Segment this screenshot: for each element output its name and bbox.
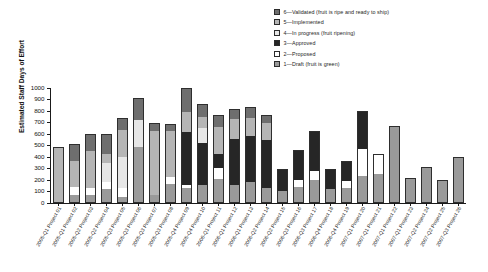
bar-segment-proposed xyxy=(102,182,111,189)
y-axis-tick-label: 900 xyxy=(34,96,44,102)
bar-segment-draft xyxy=(406,179,415,202)
bar-segment-approved xyxy=(230,139,239,185)
bar-slot xyxy=(434,88,450,203)
bar-stack[interactable] xyxy=(373,154,384,203)
bar-segment-approved xyxy=(294,151,303,180)
bar-stack[interactable] xyxy=(165,124,176,203)
legend-item[interactable]: 1—Draft (fruit is green) xyxy=(274,60,389,69)
bar-slot xyxy=(162,88,178,203)
legend-item[interactable]: 5—Implemented xyxy=(274,18,389,27)
bar-segment-implemented xyxy=(118,130,127,158)
bar-segment-implemented xyxy=(86,151,95,188)
bar-segment-draft xyxy=(358,176,367,202)
bar-segment-validated xyxy=(70,145,79,161)
bar-stack[interactable] xyxy=(85,134,96,203)
bar-stack[interactable] xyxy=(277,169,288,203)
stacked-bar-chart: 6—Validated (fruit is ripe and ready to … xyxy=(0,0,488,272)
legend-item-label: 4—In progress (fruit ripening) xyxy=(284,30,356,36)
bar-segment-validated xyxy=(118,119,127,129)
bar-stack[interactable] xyxy=(421,167,432,204)
bar-stack[interactable] xyxy=(437,180,448,203)
legend-item[interactable]: 4—In progress (fruit ripening) xyxy=(274,28,389,37)
bar-segment-approved xyxy=(358,112,367,149)
bar-segment-draft xyxy=(230,185,239,202)
bar-segment-proposed xyxy=(310,171,319,180)
bar-segment-draft xyxy=(438,181,447,202)
y-axis-tick-label: 200 xyxy=(34,177,44,183)
legend-item[interactable]: 6—Validated (fruit is ripe and ready to … xyxy=(274,7,389,16)
bar-segment-validated xyxy=(134,99,143,121)
bar-segment-proposed xyxy=(166,177,175,184)
bar-segment-approved xyxy=(310,132,319,171)
bar-segment-proposed xyxy=(342,181,351,188)
bar-slot xyxy=(82,88,98,203)
bar-segment-in_progress xyxy=(134,120,143,146)
bar-stack[interactable] xyxy=(101,134,112,203)
bar-stack[interactable] xyxy=(261,115,272,203)
legend-swatch-icon xyxy=(274,51,280,57)
bar-stack[interactable] xyxy=(69,144,80,203)
y-axis-tick-label: 100 xyxy=(34,188,44,194)
bar-segment-draft xyxy=(198,185,207,202)
bar-slot xyxy=(242,88,258,203)
bar-slot xyxy=(354,88,370,203)
bar-stack[interactable] xyxy=(357,111,368,203)
bar-slot xyxy=(338,88,354,203)
bar-segment-draft xyxy=(86,195,95,202)
bar-segment-approved xyxy=(326,170,335,190)
bar-stack[interactable] xyxy=(245,107,256,203)
legend-swatch-icon xyxy=(274,30,280,36)
bar-segment-draft xyxy=(182,188,191,202)
legend-item[interactable]: 3—Approved xyxy=(274,39,389,48)
legend-item[interactable]: 2—Proposed xyxy=(274,49,389,58)
bar-slot xyxy=(290,88,306,203)
bar-segment-draft xyxy=(134,147,143,202)
bar-stack[interactable] xyxy=(389,126,400,203)
bar-stack[interactable] xyxy=(117,118,128,203)
bar-segment-draft xyxy=(422,168,431,203)
bar-segment-implemented xyxy=(54,148,63,202)
bar-stack[interactable] xyxy=(293,150,304,203)
bar-segment-validated xyxy=(182,89,191,112)
bar-segment-implemented xyxy=(230,119,239,139)
bar-segment-implemented xyxy=(166,131,175,177)
bar-segment-validated xyxy=(214,116,223,128)
bar-slot xyxy=(50,88,66,203)
bar-segment-draft xyxy=(262,188,271,202)
bar-segment-validated xyxy=(198,105,207,117)
bar-series-group xyxy=(50,88,466,203)
bar-stack[interactable] xyxy=(453,157,464,203)
legend-item-label: 6—Validated (fruit is ripe and ready to … xyxy=(284,9,390,15)
bar-stack[interactable] xyxy=(213,115,224,203)
bar-segment-proposed xyxy=(70,187,79,195)
bar-segment-draft xyxy=(166,184,175,202)
legend-swatch-icon xyxy=(274,40,280,46)
bar-slot xyxy=(178,88,194,203)
bar-segment-draft xyxy=(118,197,127,202)
y-axis-tick-label: 1000 xyxy=(31,85,45,91)
legend-item-label: 3—Approved xyxy=(284,40,316,46)
bar-segment-draft xyxy=(294,187,303,202)
bar-segment-in_progress xyxy=(198,128,207,143)
bar-stack[interactable] xyxy=(405,178,416,203)
bar-segment-implemented xyxy=(150,131,159,195)
bar-slot xyxy=(114,88,130,203)
bar-stack[interactable] xyxy=(309,131,320,203)
chart-legend: 6—Validated (fruit is ripe and ready to … xyxy=(274,7,389,69)
bar-stack[interactable] xyxy=(181,88,192,203)
bar-stack[interactable] xyxy=(325,169,336,203)
bar-segment-draft xyxy=(214,179,223,202)
bar-segment-draft xyxy=(374,174,383,202)
bar-segment-approved xyxy=(198,143,207,184)
bar-stack[interactable] xyxy=(133,98,144,203)
bar-stack[interactable] xyxy=(197,104,208,203)
bar-segment-validated xyxy=(150,124,159,131)
bar-stack[interactable] xyxy=(53,147,64,203)
x-axis-line xyxy=(50,203,466,204)
bar-stack[interactable] xyxy=(341,161,352,203)
bar-stack[interactable] xyxy=(149,123,160,203)
bar-stack[interactable] xyxy=(229,109,240,203)
bar-slot xyxy=(66,88,82,203)
bar-segment-validated xyxy=(86,135,95,151)
bar-segment-draft xyxy=(70,195,79,202)
